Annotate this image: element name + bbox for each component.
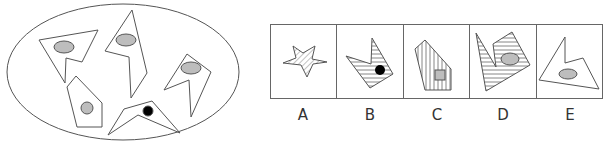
gray-ellipse-1 <box>54 41 74 53</box>
question-figure <box>7 4 239 140</box>
shape-1 <box>39 30 98 83</box>
option-d-shape[interactable] <box>476 32 530 91</box>
gray-ellipse <box>559 69 577 79</box>
option-d-label: D <box>470 106 536 124</box>
option-e-label: E <box>537 106 603 124</box>
gray-ellipse-2 <box>116 34 136 46</box>
gray-ellipse-3 <box>181 62 201 74</box>
shape-2 <box>105 10 147 98</box>
option-e-shape[interactable] <box>539 37 599 89</box>
option-b-label: B <box>337 106 403 124</box>
black-dot-5 <box>143 106 153 116</box>
option-c-label: C <box>404 106 470 124</box>
option-c-shape[interactable] <box>415 40 451 90</box>
shape-4 <box>67 76 102 127</box>
option-a-shape[interactable] <box>283 46 327 77</box>
gray-ellipse <box>501 53 519 65</box>
shape-5 <box>108 101 180 135</box>
gray-circle-4 <box>81 102 93 114</box>
gray-square <box>435 70 445 80</box>
option-a-label: A <box>270 106 336 124</box>
black-dot <box>375 65 385 75</box>
option-b-shape[interactable] <box>346 38 393 88</box>
